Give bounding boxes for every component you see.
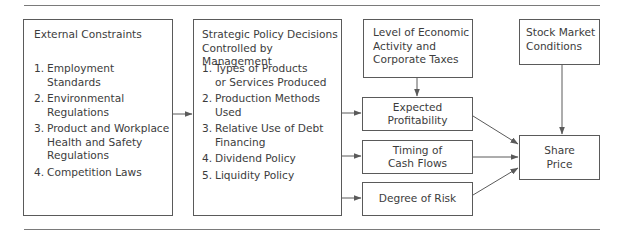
arrow-expected-to-share [473,116,518,144]
arrow-risk-to-share [473,168,518,195]
connector-arrows [0,0,619,240]
